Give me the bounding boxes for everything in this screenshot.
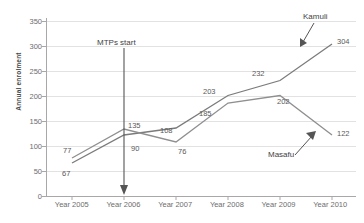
plot-area	[0, 0, 364, 223]
x-tick-year-2009: Year 2009	[253, 200, 305, 216]
gridlines	[46, 22, 356, 172]
data-label-185: 185	[199, 110, 212, 118]
kamuli-label-arrow	[300, 23, 314, 47]
data-label-304: 304	[337, 38, 350, 46]
x-tick-year-2005: Year 2005	[46, 200, 98, 216]
y-axis-ticks	[42, 22, 46, 197]
series-line-kamuli	[72, 44, 332, 163]
data-label-76: 76	[178, 148, 186, 156]
data-label-203: 203	[203, 88, 216, 96]
x-tick-year-2007: Year 2007	[149, 200, 201, 216]
data-label-108: 108	[160, 127, 173, 135]
data-label-202: 202	[277, 98, 290, 106]
masafu-label-arrow	[295, 131, 316, 155]
data-label-232: 232	[252, 70, 265, 78]
data-label-67: 67	[62, 170, 70, 178]
x-tick-year-2010: Year 2010	[304, 200, 356, 216]
annotation-kamuli: Kamuli	[303, 12, 327, 21]
line-chart: Annual enrolment 350 300 250 200 150 100…	[0, 0, 364, 223]
annotation-mtps-start: MTPs start	[97, 38, 136, 47]
annotation-masafu: Masafu	[268, 150, 294, 159]
x-tick-year-2006: Year 2006	[98, 200, 150, 216]
data-label-90: 90	[131, 145, 139, 153]
data-label-77: 77	[63, 147, 71, 155]
x-tick-year-2008: Year 2008	[201, 200, 253, 216]
series-line-masafu	[72, 96, 332, 159]
data-label-122: 122	[337, 130, 350, 138]
data-label-135: 135	[128, 122, 141, 130]
x-axis-tick-labels: Year 2005 Year 2006 Year 2007 Year 2008 …	[46, 200, 356, 216]
